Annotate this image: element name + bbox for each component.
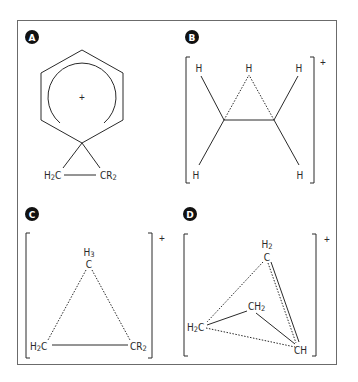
badge-b: B <box>185 30 199 44</box>
label-h-top-right: H <box>296 63 303 74</box>
panel-b <box>186 57 314 183</box>
figure-canvas: A B C D + H2C CR2 H H H H H + H3 C H2C C… <box>0 0 358 382</box>
svg-text:C: C <box>29 210 36 220</box>
panel-a <box>41 50 123 175</box>
right-bracket <box>312 234 316 356</box>
label-h2c: H2C <box>30 341 47 353</box>
left-bracket <box>26 233 30 358</box>
label-h-bottom-right: H <box>297 170 304 181</box>
label-c-top: C <box>264 252 270 263</box>
left-bracket <box>186 57 190 183</box>
badge-a: A <box>25 30 39 44</box>
label-ch: CH <box>294 345 307 356</box>
right-bracket <box>148 233 152 358</box>
label-h2c: H2C <box>187 322 204 334</box>
label-h3: H3 <box>83 247 94 259</box>
label-h2-top: H2 <box>261 239 272 251</box>
badge-d: D <box>183 207 197 221</box>
svg-text:B: B <box>189 33 196 43</box>
charge-plus: + <box>79 92 85 103</box>
svg-text:A: A <box>29 33 36 43</box>
svg-text:D: D <box>186 210 193 220</box>
label-h-bottom-left: H <box>193 170 200 181</box>
label-cr2: CR2 <box>130 341 147 353</box>
label-c-top: C <box>86 259 92 270</box>
charge-plus: + <box>324 234 330 245</box>
badge-c: C <box>25 207 39 221</box>
label-h-top-left: H <box>196 63 203 74</box>
label-h2c: H2C <box>44 170 61 182</box>
label-ch2: CH2 <box>248 301 265 313</box>
label-cr2: CR2 <box>100 170 117 182</box>
left-bracket <box>184 234 188 356</box>
right-bracket <box>310 57 314 183</box>
charge-plus: + <box>320 57 326 68</box>
panel-d <box>184 234 316 356</box>
charge-plus: + <box>159 233 165 244</box>
label-h-top-middle: H <box>246 63 253 74</box>
